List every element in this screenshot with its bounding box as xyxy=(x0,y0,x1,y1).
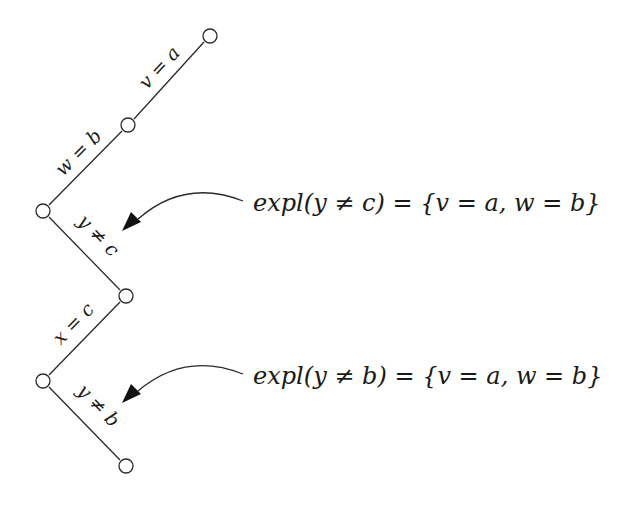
edge-label-v-eq-a: v = a xyxy=(134,41,184,93)
arrow-to-y-neq-b xyxy=(138,366,243,391)
search-tree-diagram: v = a w = b y ≠ c x = c y ≠ b expl(y ≠ c… xyxy=(0,0,644,510)
edge-label-y-neq-c: y ≠ c xyxy=(73,209,124,261)
arrowhead-icon xyxy=(122,212,141,231)
arrow-to-y-neq-c xyxy=(138,193,243,219)
explanation-formula-top: expl(y ≠ c) = {v = a, w = b} xyxy=(253,189,601,217)
edge-label-w-eq-b: w = b xyxy=(50,124,105,179)
tree-node-4 xyxy=(119,289,133,303)
tree-node-6 xyxy=(119,459,133,473)
explanation-formula-bottom: expl(y ≠ b) = {v = a, w = b} xyxy=(253,362,602,390)
tree-node-3 xyxy=(36,204,50,218)
edge-label-y-neq-b: y ≠ b xyxy=(73,378,125,431)
tree-node-2 xyxy=(121,118,135,132)
arrowhead-icon xyxy=(122,384,141,403)
edge-label-x-eq-c: x = c xyxy=(48,297,98,348)
explanation-arrows xyxy=(122,193,243,403)
nodes xyxy=(36,29,217,473)
tree-node-5 xyxy=(36,374,50,388)
tree-node-1 xyxy=(203,29,217,43)
